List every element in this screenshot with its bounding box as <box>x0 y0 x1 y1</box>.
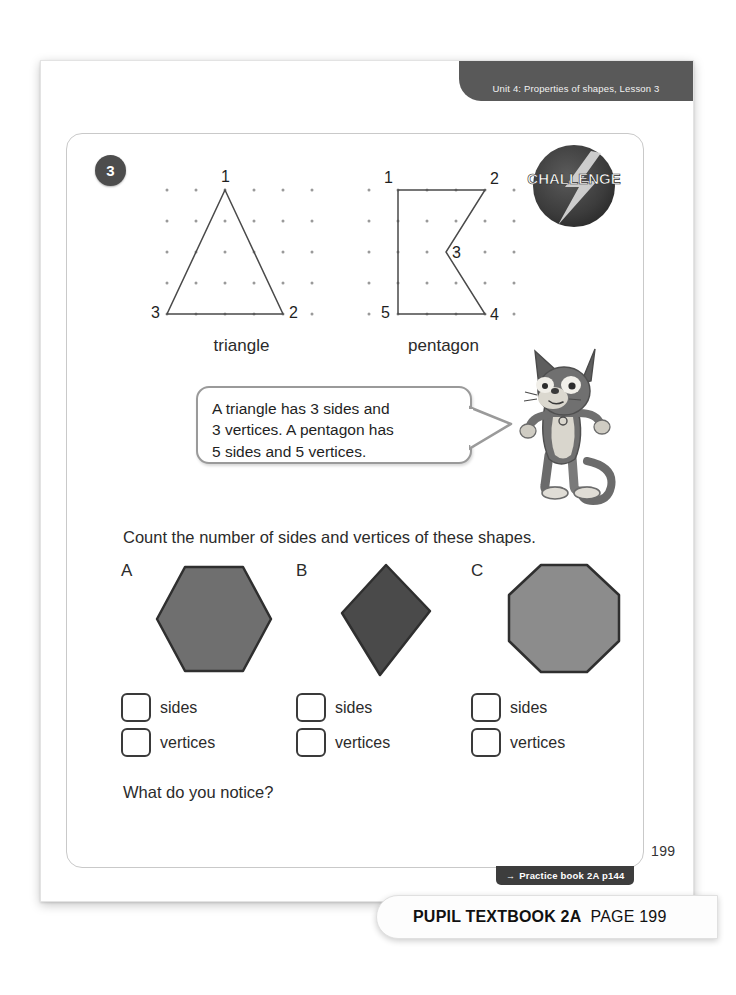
pentagon-vertex-label-2: 2 <box>490 170 499 187</box>
unit-header-label: Unit 4: Properties of shapes, Lesson 3 <box>493 83 660 94</box>
answer-label-b-vertices: vertices <box>335 734 390 752</box>
speech-bubble: A triangle has 3 sides and 3 vertices. A… <box>196 386 472 464</box>
triangle-caption: triangle <box>149 336 334 356</box>
answer-box-b-vertices[interactable] <box>296 728 326 757</box>
speech-bubble-line-1: A triangle has 3 sides and <box>212 398 456 419</box>
answer-box-c-vertices[interactable] <box>471 728 501 757</box>
answer-box-a-sides[interactable] <box>121 693 151 722</box>
shape-letter-a: A <box>121 561 132 581</box>
shape-letter-c: C <box>471 561 483 581</box>
practice-book-tab[interactable]: → Practice book 2A p144 <box>496 866 634 885</box>
answer-row-b-sides: sides <box>296 693 471 722</box>
answer-label-c-vertices: vertices <box>510 734 565 752</box>
pentagon-outline <box>398 190 485 314</box>
answer-label-c-sides: sides <box>510 699 547 717</box>
question-number-badge: 3 <box>95 155 126 186</box>
answer-label-b-sides: sides <box>335 699 372 717</box>
answer-group-c: sides vertices <box>471 693 646 763</box>
speech-bubble-line-2: 3 vertices. A pentagon has <box>212 419 456 440</box>
speech-bubble-line-3: 5 sides and 5 vertices. <box>212 441 456 462</box>
challenge-badge: CHALLENGE <box>525 137 623 235</box>
pentagon-vertex-label-4: 4 <box>490 306 499 323</box>
answer-group-b: sides vertices <box>296 693 471 763</box>
answer-row-b-vertices: vertices <box>296 728 471 757</box>
answer-row-c-sides: sides <box>471 693 646 722</box>
figure-pentagon: 1 2 3 4 5 pentagon <box>351 166 536 335</box>
triangle-vertex-label-1: 1 <box>221 168 230 185</box>
answer-box-c-sides[interactable] <box>471 693 501 722</box>
practice-book-tab-label: Practice book 2A p144 <box>519 870 624 881</box>
shape-kite <box>324 559 454 679</box>
answer-label-a-sides: sides <box>160 699 197 717</box>
caption-book-title: PUPIL TEXTBOOK 2A <box>413 908 581 926</box>
unit-header-bar: Unit 4: Properties of shapes, Lesson 3 <box>459 61 693 101</box>
textbook-page-card: Unit 4: Properties of shapes, Lesson 3 3… <box>40 60 694 902</box>
answer-group-a: sides vertices <box>121 693 296 763</box>
challenge-badge-label: CHALLENGE <box>527 170 620 187</box>
answer-row-a-sides: sides <box>121 693 296 722</box>
answer-box-b-sides[interactable] <box>296 693 326 722</box>
question-number-text: 3 <box>106 162 114 179</box>
answer-box-a-vertices[interactable] <box>121 728 151 757</box>
triangle-vertex-label-3: 3 <box>151 304 160 321</box>
triangle-vertex-label-2: 2 <box>289 304 298 321</box>
page-number: 199 <box>651 843 676 859</box>
dot-grid-triangle <box>166 189 314 316</box>
figure-triangle: 1 2 3 triangle <box>149 166 334 335</box>
instruction-text: Count the number of sides and vertices o… <box>123 528 536 547</box>
dot-grid-pentagon <box>368 189 516 316</box>
shape-letter-b: B <box>296 561 307 581</box>
answer-row-a-vertices: vertices <box>121 728 296 757</box>
caption-page-label: PAGE 199 <box>590 908 666 926</box>
pentagon-vertex-label-5: 5 <box>381 304 390 321</box>
notice-prompt: What do you notice? <box>123 783 273 802</box>
answer-row-c-vertices: vertices <box>471 728 646 757</box>
answer-label-a-vertices: vertices <box>160 734 215 752</box>
arrow-right-icon: → <box>506 871 515 881</box>
caption-bar: PUPIL TEXTBOOK 2A PAGE 199 <box>376 895 718 939</box>
pentagon-vertex-label-1: 1 <box>384 169 393 186</box>
pentagon-vertex-label-3: 3 <box>452 244 461 261</box>
shape-hexagon <box>149 559 279 679</box>
cat-character-illustration <box>509 343 619 508</box>
shape-octagon <box>499 559 629 679</box>
